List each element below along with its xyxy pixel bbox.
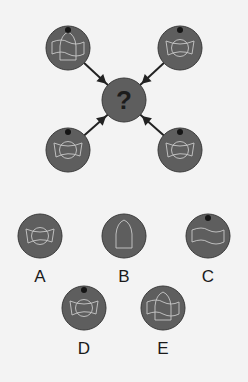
option-disc-e[interactable] (141, 286, 185, 330)
option-label-c: C (202, 268, 214, 285)
option-disc-a[interactable] (18, 214, 62, 258)
arrow-bottom-left (84, 115, 107, 136)
option-label-a: A (34, 268, 45, 285)
marker-dot-icon (205, 215, 211, 221)
option-label-e: E (157, 340, 168, 357)
option-disc-b[interactable] (102, 214, 146, 258)
marker-dot-icon (65, 129, 71, 135)
question-mark: ? (116, 87, 132, 113)
sequence-disc-bottom-left (46, 128, 90, 172)
sequence-disc-top-right (158, 26, 202, 70)
sequence-disc-bottom-right (158, 128, 202, 172)
puzzle-figure (0, 0, 248, 382)
option-disc-c[interactable] (186, 214, 230, 258)
arrow-top-right (140, 63, 164, 85)
arrow-top-left (84, 63, 108, 85)
marker-dot-icon (81, 287, 87, 293)
marker-dot-icon (177, 129, 183, 135)
marker-dot-icon (177, 27, 183, 33)
option-label-d: D (78, 340, 90, 357)
arrow-bottom-right (140, 115, 163, 136)
marker-dot-icon (65, 27, 71, 33)
option-label-b: B (118, 268, 129, 285)
sequence-disc-top-left (46, 26, 90, 70)
option-disc-d[interactable] (62, 286, 106, 330)
puzzle-canvas: ? A B C D E (0, 0, 248, 382)
